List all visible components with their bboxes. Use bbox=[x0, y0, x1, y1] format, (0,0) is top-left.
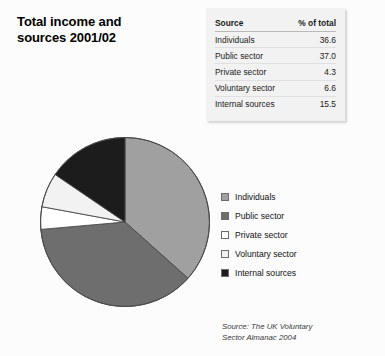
chart-page: Total income and sources 2001/02 Source … bbox=[0, 0, 385, 356]
legend-label: Public sector bbox=[235, 211, 284, 221]
table-cell-percent: 6.6 bbox=[289, 80, 336, 96]
pie-slice-group bbox=[41, 138, 210, 307]
table-cell-source: Voluntary sector bbox=[215, 80, 289, 96]
table-cell-percent: 15.5 bbox=[289, 96, 336, 112]
pie-chart bbox=[39, 136, 211, 308]
data-table: Source % of total Individuals 36.6 Publi… bbox=[215, 18, 336, 112]
table-header-percent: % of total bbox=[289, 18, 336, 32]
legend-item-private-sector: Private sector bbox=[221, 225, 297, 244]
legend-item-individuals: Individuals bbox=[221, 187, 297, 206]
legend-swatch-icon bbox=[221, 250, 229, 258]
table-row: Voluntary sector 6.6 bbox=[215, 80, 336, 96]
source-citation-line-1: Source: The UK Voluntary bbox=[222, 322, 312, 333]
legend-swatch-icon bbox=[221, 212, 229, 220]
table-row: Public sector 37.0 bbox=[215, 48, 336, 64]
table-cell-source: Public sector bbox=[215, 48, 289, 64]
table-cell-source: Private sector bbox=[215, 64, 289, 80]
table-row: Private sector 4.3 bbox=[215, 64, 336, 80]
legend-label: Individuals bbox=[235, 192, 276, 202]
table-header-source: Source bbox=[215, 18, 289, 32]
legend-item-internal-sources: Internal sources bbox=[221, 263, 297, 282]
table-header-row: Source % of total bbox=[215, 18, 336, 32]
legend-item-voluntary-sector: Voluntary sector bbox=[221, 244, 297, 263]
table-row: Individuals 36.6 bbox=[215, 32, 336, 48]
page-title-line-1: Total income and bbox=[17, 14, 187, 30]
page-title: Total income and sources 2001/02 bbox=[17, 14, 187, 46]
source-citation-line-2: Sector Almanac 2004 bbox=[222, 333, 312, 344]
source-citation: Source: The UK Voluntary Sector Almanac … bbox=[222, 322, 312, 343]
legend-swatch-icon bbox=[221, 231, 229, 239]
table-row: Internal sources 15.5 bbox=[215, 96, 336, 112]
table-cell-percent: 4.3 bbox=[289, 64, 336, 80]
data-table-panel: Source % of total Individuals 36.6 Publi… bbox=[206, 8, 345, 121]
chart-legend: Individuals Public sector Private sector… bbox=[221, 187, 297, 282]
table-cell-source: Individuals bbox=[215, 32, 289, 48]
pie-chart-svg bbox=[39, 136, 211, 308]
legend-swatch-icon bbox=[221, 269, 229, 277]
legend-label: Private sector bbox=[235, 230, 288, 240]
table-cell-percent: 36.6 bbox=[289, 32, 336, 48]
legend-swatch-icon bbox=[221, 193, 229, 201]
legend-item-public-sector: Public sector bbox=[221, 206, 297, 225]
legend-label: Voluntary sector bbox=[235, 249, 297, 259]
table-cell-percent: 37.0 bbox=[289, 48, 336, 64]
table-body: Individuals 36.6 Public sector 37.0 Priv… bbox=[215, 32, 336, 112]
legend-label: Internal sources bbox=[235, 268, 296, 278]
page-title-line-2: sources 2001/02 bbox=[17, 30, 187, 46]
table-cell-source: Internal sources bbox=[215, 96, 289, 112]
